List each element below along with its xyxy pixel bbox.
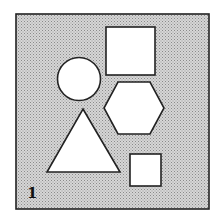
figure-panel: 1: [0, 0, 223, 224]
panel-number-label: 1: [27, 186, 37, 201]
large-square-shape: [106, 27, 155, 75]
circle-shape: [58, 58, 101, 101]
hexagon-shape: [104, 82, 164, 134]
small-square-shape: [130, 154, 161, 186]
